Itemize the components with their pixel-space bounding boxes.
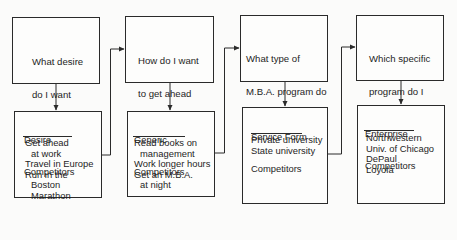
- question-line: What desire: [32, 56, 83, 67]
- question-line: What type of: [246, 53, 327, 64]
- competitor-list-generic: Read books on management Work longer hou…: [134, 138, 210, 191]
- competitor-list-desire: Get ahead at work Travel in Europe Run i…: [25, 138, 93, 202]
- heading-line: Competitors: [251, 164, 307, 175]
- question-line: program do I: [369, 86, 435, 97]
- heading-underline: [364, 130, 414, 131]
- list-item: Read books on: [134, 138, 210, 149]
- competitor-list-service-form: Private university State university: [251, 135, 322, 156]
- question-line: to get ahead: [138, 88, 199, 99]
- competitor-list-enterprise: Northwestern Univ. of Chicago DePaul Loy…: [366, 133, 434, 175]
- question-line: do I want: [32, 89, 83, 100]
- question-line: Which specific: [369, 53, 435, 64]
- list-item: at night: [134, 180, 210, 191]
- list-item: State university: [251, 146, 322, 157]
- list-item: Get ahead: [25, 138, 93, 149]
- list-item: Private university: [251, 135, 322, 146]
- question-line: How do I want: [138, 55, 199, 66]
- list-item: Marathon: [25, 191, 93, 202]
- list-item: Northwestern: [366, 133, 434, 144]
- question-line: M.B.A. program do: [246, 86, 327, 97]
- list-item: Loyola: [366, 165, 434, 176]
